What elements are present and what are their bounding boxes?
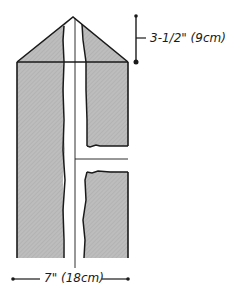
left-strip-edge [63, 26, 65, 258]
width-dimension-label: 7" (18cm) [44, 272, 104, 284]
opening-top-edge [87, 145, 128, 147]
body-right-upper-fill [86, 62, 128, 147]
height-dimension-bottom-dot [134, 60, 139, 65]
height-dimension-top-dot [134, 14, 138, 18]
body-left-fill [17, 62, 65, 258]
body-right-lower-fill [83, 171, 128, 258]
width-dimension-right-dot [126, 277, 130, 281]
height-dimension-label: 3-1/2" (9cm) [150, 32, 226, 44]
